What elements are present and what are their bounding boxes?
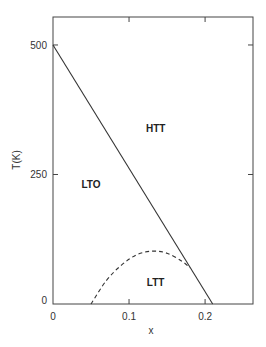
x-tick-label: 0.1 bbox=[122, 311, 136, 322]
axis-tick-labels: 00.10.20250500 bbox=[30, 40, 212, 322]
y-tick-label: 250 bbox=[30, 169, 47, 180]
phase-diagram-chart: 00.10.20250500 HTTLTOLTT x T(K) bbox=[0, 0, 266, 347]
y-tick-label: 0 bbox=[41, 295, 47, 306]
dashed-phase-boundary bbox=[91, 251, 190, 304]
x-axis-label: x bbox=[149, 325, 154, 336]
x-tick-label: 0.2 bbox=[198, 311, 212, 322]
x-tick-label: 0 bbox=[50, 311, 56, 322]
region-label-htt: HTT bbox=[146, 123, 165, 134]
region-label-lto: LTO bbox=[81, 179, 100, 190]
solid-phase-boundary bbox=[53, 45, 213, 304]
axis-ticks bbox=[53, 17, 253, 304]
region-label-ltt: LTT bbox=[147, 277, 165, 288]
y-tick-label: 500 bbox=[30, 40, 47, 51]
data-series bbox=[53, 45, 213, 304]
plot-frame bbox=[53, 17, 253, 304]
y-axis-label: T(K) bbox=[11, 150, 22, 169]
